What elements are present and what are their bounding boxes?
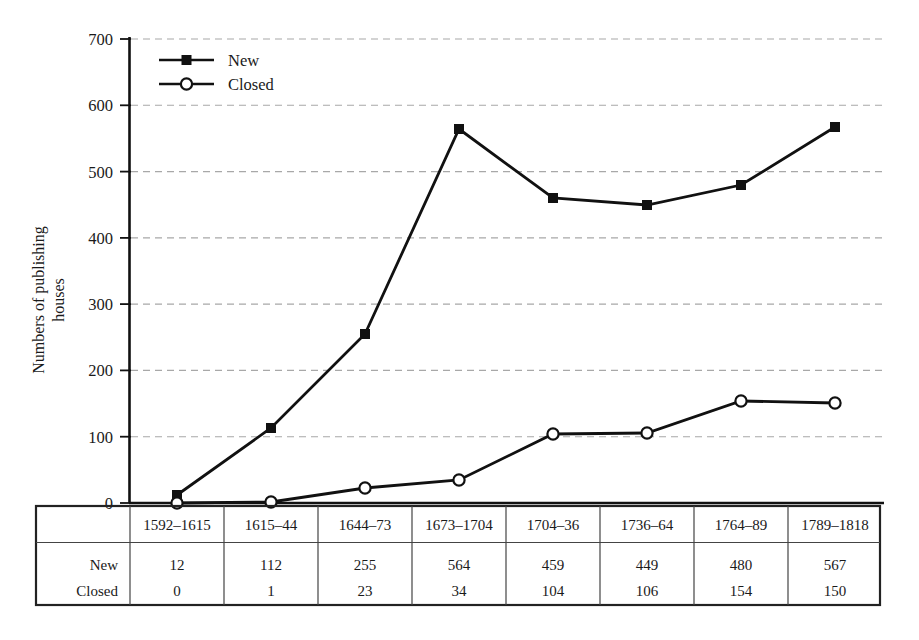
table-cell-closed-5: 106 bbox=[636, 583, 659, 599]
series-closed-markers bbox=[171, 395, 840, 508]
table-col-header-7: 1789–1818 bbox=[801, 517, 869, 533]
table-col-header-2: 1644–73 bbox=[339, 517, 392, 533]
table-cell-new-3: 564 bbox=[448, 557, 471, 573]
data-point-closed-1736-64 bbox=[641, 427, 652, 438]
y-tick-label-300: 300 bbox=[88, 295, 113, 314]
table-cell-closed-6: 154 bbox=[730, 583, 753, 599]
data-point-closed-1789-1818 bbox=[829, 397, 840, 408]
y-tick-label-500: 500 bbox=[88, 163, 113, 182]
y-tick-label-400: 400 bbox=[88, 229, 113, 248]
y-axis-title-line1: Numbers of publishing bbox=[30, 226, 48, 374]
series-closed-line bbox=[177, 401, 835, 503]
table-cell-new-7: 567 bbox=[824, 557, 847, 573]
table-cell-new-5: 449 bbox=[636, 557, 659, 573]
data-point-closed-1673-1704 bbox=[453, 474, 464, 485]
legend-marker-filled-square-icon bbox=[182, 56, 191, 65]
table-cell-new-4: 459 bbox=[542, 557, 565, 573]
table-cell-closed-3: 34 bbox=[452, 583, 468, 599]
data-point-new-1789-1818 bbox=[831, 123, 840, 132]
table-cell-closed-1: 1 bbox=[267, 583, 275, 599]
y-tick-label-700: 700 bbox=[88, 30, 113, 49]
table-col-header-6: 1764–89 bbox=[715, 517, 768, 533]
line-chart-with-data-table: 700 600 500 400 300 200 100 0 Numbers of… bbox=[0, 0, 919, 640]
table-row-label-new: New bbox=[90, 557, 118, 573]
data-point-new-1704-36 bbox=[549, 194, 558, 203]
table-cell-new-1: 112 bbox=[260, 557, 282, 573]
table-cell-new-6: 480 bbox=[730, 557, 753, 573]
table-col-header-1: 1615–44 bbox=[245, 517, 298, 533]
table-col-header-0: 1592–1615 bbox=[143, 517, 211, 533]
data-point-closed-1764-89 bbox=[735, 395, 746, 406]
table-cell-new-0: 12 bbox=[170, 557, 185, 573]
legend: New Closed bbox=[159, 51, 275, 94]
legend-label-new: New bbox=[228, 51, 259, 70]
table-cell-closed-7: 150 bbox=[824, 583, 847, 599]
series-new-markers bbox=[173, 123, 840, 500]
data-point-closed-1704-36 bbox=[547, 428, 558, 439]
y-axis-title-line2: houses bbox=[50, 278, 67, 322]
legend-marker-open-circle-icon bbox=[181, 78, 192, 89]
data-point-new-1615-44 bbox=[267, 424, 276, 433]
gridlines bbox=[131, 39, 884, 437]
legend-label-closed: Closed bbox=[228, 75, 275, 94]
data-point-new-1764-89 bbox=[737, 181, 746, 190]
data-point-closed-1644-73 bbox=[359, 482, 370, 493]
y-tick-label-200: 200 bbox=[88, 361, 113, 380]
legend-entry-new[interactable]: New bbox=[159, 51, 259, 70]
y-tick-label-600: 600 bbox=[88, 96, 113, 115]
table-cell-new-2: 255 bbox=[354, 557, 377, 573]
y-tick-label-0: 0 bbox=[105, 494, 113, 513]
table-col-header-5: 1736–64 bbox=[621, 517, 674, 533]
table-cell-closed-4: 104 bbox=[542, 583, 565, 599]
y-axis-tick-labels: 700 600 500 400 300 200 100 0 bbox=[88, 30, 113, 513]
data-point-new-1673-1704 bbox=[455, 125, 464, 134]
table-row: New 12 112 255 564 459 449 480 567 bbox=[90, 557, 847, 573]
publishing-houses-figure: 700 600 500 400 300 200 100 0 Numbers of… bbox=[0, 0, 919, 640]
table-col-header-3: 1673–1704 bbox=[425, 517, 493, 533]
y-axis-title: Numbers of publishing houses bbox=[30, 226, 67, 374]
y-tick-label-100: 100 bbox=[88, 428, 113, 447]
series-closed bbox=[171, 395, 840, 508]
table-cell-closed-0: 0 bbox=[173, 583, 181, 599]
table-row: Closed 0 1 23 34 104 106 154 150 bbox=[76, 583, 846, 599]
table-col-header-4: 1704–36 bbox=[527, 517, 580, 533]
series-new bbox=[173, 123, 840, 500]
axes bbox=[129, 37, 884, 503]
data-point-new-1644-73 bbox=[361, 330, 370, 339]
data-table: 1592–1615 1615–44 1644–73 1673–1704 1704… bbox=[36, 506, 880, 605]
data-point-new-1736-64 bbox=[643, 201, 652, 210]
table-cell-closed-2: 23 bbox=[358, 583, 373, 599]
legend-entry-closed[interactable]: Closed bbox=[159, 75, 275, 94]
table-row-label-closed: Closed bbox=[76, 583, 118, 599]
